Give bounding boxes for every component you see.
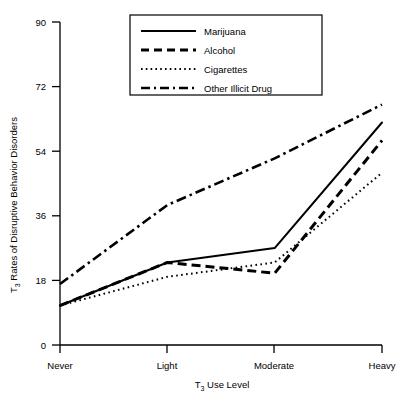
- y-tick-label-0: 0: [41, 340, 46, 351]
- x-tick-label-light: Light: [157, 360, 178, 371]
- x-axis-title-rest: Use Level: [204, 379, 249, 390]
- legend-label-marijuana: Marijuana: [204, 26, 246, 37]
- y-tick-label-54: 54: [35, 146, 46, 157]
- x-tick-label-heavy: Heavy: [369, 360, 396, 371]
- y-axis-title-rest: Rates of Disruptive Behavior Disorders: [8, 117, 19, 284]
- line-chart: 90 72 54 36 18 0 Never Light Moderate He…: [0, 0, 406, 399]
- chart-figure: 90 72 54 36 18 0 Never Light Moderate He…: [0, 0, 406, 399]
- y-tick-label-72: 72: [35, 81, 46, 92]
- legend-label-other-illicit-drug: Other Illicit Drug: [204, 83, 272, 94]
- y-tick-label-18: 18: [35, 275, 46, 286]
- legend: Marijuana Alcohol Cigarettes Other Illic…: [130, 15, 322, 95]
- x-tick-label-never: Never: [47, 360, 72, 371]
- y-tick-label-36: 36: [35, 210, 46, 221]
- y-tick-label-90: 90: [35, 17, 46, 28]
- legend-label-cigarettes: Cigarettes: [204, 64, 248, 75]
- legend-label-alcohol: Alcohol: [204, 45, 235, 56]
- x-tick-label-moderate: Moderate: [254, 360, 294, 371]
